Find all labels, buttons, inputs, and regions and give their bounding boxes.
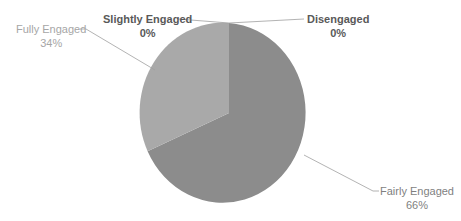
leader-line-fairly: [304, 155, 379, 191]
leader-line-disengaged: [229, 19, 304, 23]
label-pct: 0%: [307, 26, 369, 40]
label-pct: 0%: [103, 26, 192, 40]
label-slightly-engaged: Slightly Engaged 0%: [103, 12, 192, 40]
label-name: Fully Engaged: [16, 22, 86, 36]
label-pct: 66%: [380, 198, 454, 212]
label-name: Fairly Engaged: [380, 184, 454, 198]
label-name: Disengaged: [307, 12, 369, 26]
label-pct: 34%: [16, 36, 86, 50]
label-fully-engaged: Fully Engaged 34%: [16, 22, 86, 50]
label-fairly-engaged: Fairly Engaged 66%: [380, 184, 454, 212]
label-disengaged: Disengaged 0%: [307, 12, 369, 40]
label-name: Slightly Engaged: [103, 12, 192, 26]
